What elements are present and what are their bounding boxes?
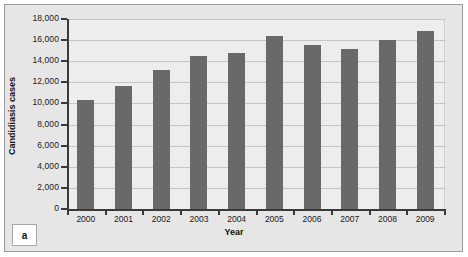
bar (77, 100, 94, 209)
y-axis-tick (61, 102, 67, 104)
y-axis-tick (61, 145, 67, 147)
x-axis-tick-label: 2005 (254, 214, 294, 224)
bar (379, 40, 396, 209)
y-axis-tick (61, 124, 67, 126)
bar (190, 56, 207, 209)
y-axis-tick-label: 0 (11, 203, 59, 213)
y-axis-tick (61, 187, 67, 189)
y-axis-tick (61, 60, 67, 62)
y-axis-tick (61, 18, 67, 20)
x-axis-tick-label: 2002 (141, 214, 181, 224)
plot-right-edge (444, 19, 445, 209)
bar (304, 45, 321, 209)
y-axis-tick-label: 10,000 (11, 97, 59, 107)
bar (153, 70, 170, 209)
y-axis-tick-label: 6,000 (11, 140, 59, 150)
y-axis-tick-label: 2,000 (11, 182, 59, 192)
bar (228, 53, 245, 209)
y-axis-tick-label: 14,000 (11, 55, 59, 65)
y-axis-tick (61, 39, 67, 41)
x-axis-tick-label: 2009 (405, 214, 445, 224)
x-axis-tick-label: 2001 (104, 214, 144, 224)
x-axis-tick-label: 2007 (330, 214, 370, 224)
y-axis-tick-label: 16,000 (11, 34, 59, 44)
x-axis-tick-label: 2006 (292, 214, 332, 224)
y-axis-tick-label: 12,000 (11, 76, 59, 86)
gridline (69, 19, 446, 20)
y-axis-tick-label: 8,000 (11, 119, 59, 129)
x-axis-tick-label: 2008 (367, 214, 407, 224)
y-axis-tick (61, 81, 67, 83)
x-axis-tick-label: 2004 (217, 214, 257, 224)
y-axis-tick-label: 4,000 (11, 161, 59, 171)
bar (341, 49, 358, 209)
y-axis-tick (61, 166, 67, 168)
figure-panel: Candidiasis cases 02,0004,0006,0008,0001… (0, 0, 468, 257)
bar (115, 86, 132, 210)
y-axis-tick-label: 18,000 (11, 13, 59, 23)
x-axis-title: Year (0, 227, 468, 237)
x-axis-tick-label: 2000 (66, 214, 106, 224)
bar (266, 36, 283, 209)
x-axis-tick-label: 2003 (179, 214, 219, 224)
panel-letter: a (12, 224, 37, 246)
bar (417, 31, 434, 209)
y-axis-title: Candidiasis cases (5, 56, 19, 176)
